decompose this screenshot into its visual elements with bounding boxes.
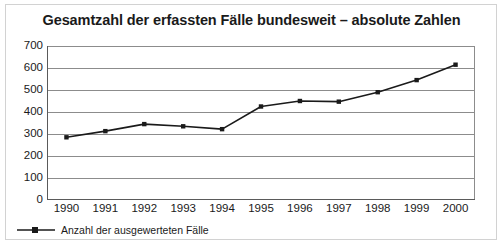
gridlines: [47, 46, 475, 200]
x-axis-tick-labels: 1990199119921993199419951996199719981999…: [47, 203, 475, 219]
y-axis-tick-labels: 0100200300400500600700: [0, 46, 43, 200]
chart-legend: Anzahl der ausgewerteten Fälle: [17, 224, 209, 236]
data-series-line: [66, 65, 455, 138]
legend-entry-label: Anzahl der ausgewerteten Fälle: [61, 224, 209, 236]
chart-title: Gesamtzahl der erfassten Fälle bundeswei…: [0, 12, 503, 28]
x-axis-tick-label: 2000: [433, 203, 479, 215]
y-axis-tick-label: 600: [3, 62, 43, 74]
y-axis-tick-label: 0: [3, 194, 43, 206]
y-axis-line: [48, 46, 475, 200]
y-axis-tick-label: 100: [3, 172, 43, 184]
y-axis-tick-label: 700: [3, 40, 43, 52]
plot-area: [47, 46, 475, 200]
y-axis-tick-label: 200: [3, 150, 43, 162]
line-chart-svg: [47, 46, 475, 200]
legend-line-square-marker-icon: [17, 225, 55, 235]
y-axis-tick-label: 400: [3, 106, 43, 118]
y-axis-tick-label: 500: [3, 84, 43, 96]
chart-figure: Gesamtzahl der erfassten Fälle bundeswei…: [0, 0, 503, 250]
y-axis-tick-label: 300: [3, 128, 43, 140]
